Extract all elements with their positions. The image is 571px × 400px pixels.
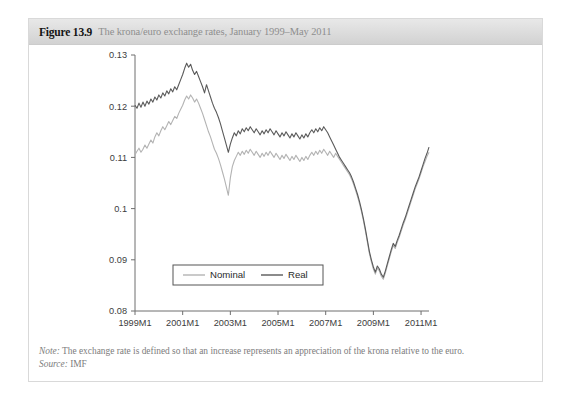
x-axis: 1999M12001M12003M12005M12007M12009M12011… [118, 311, 437, 328]
x-tick-label: 2001M1 [166, 318, 199, 328]
y-tick-label: 0.12 [109, 102, 127, 112]
figure-number: Figure 13.9 [39, 26, 92, 38]
exchange-rate-line-chart: 0.080.090.10.110.120.13 1999M12001M12003… [29, 45, 544, 341]
y-tick-label: 0.09 [109, 255, 127, 265]
figure-title: The krona/euro exchange rates, January 1… [98, 26, 331, 37]
x-tick-label: 2003M1 [214, 318, 247, 328]
figure-header: Figure 13.9 The krona/euro exchange rate… [29, 19, 542, 45]
legend-label-nominal: Nominal [210, 269, 245, 280]
source-label: Source: [39, 359, 68, 369]
chart-plot-region: 0.080.090.10.110.120.13 1999M12001M12003… [29, 45, 542, 341]
y-tick-label: 0.13 [109, 50, 127, 60]
chart-legend: NominalReal [173, 265, 323, 285]
legend-label-real: Real [288, 269, 308, 280]
note-line: Note: The exchange rate is defined so th… [39, 345, 534, 358]
x-tick-label: 2009M1 [357, 318, 390, 328]
figure-footnotes: Note: The exchange rate is defined so th… [39, 345, 534, 371]
y-tick-label: 0.11 [110, 153, 127, 163]
x-tick-label: 1999M1 [118, 318, 151, 328]
x-tick-label: 2007M1 [309, 318, 342, 328]
x-tick-label: 2005M1 [261, 318, 294, 328]
chart-series-group [135, 63, 429, 279]
series-line-nominal [135, 95, 429, 279]
figure-card: Figure 13.9 The krona/euro exchange rate… [28, 18, 543, 382]
y-axis: 0.080.090.10.110.120.13 [109, 50, 135, 316]
x-tick-label: 2011M1 [405, 318, 438, 328]
y-tick-label: 0.1 [114, 204, 127, 214]
series-line-real [135, 63, 429, 277]
y-tick-label: 0.08 [109, 306, 127, 316]
source-text: IMF [68, 359, 87, 369]
source-line: Source: IMF [39, 358, 534, 371]
note-text: The exchange rate is defined so that an … [60, 346, 464, 356]
note-label: Note: [39, 346, 60, 356]
